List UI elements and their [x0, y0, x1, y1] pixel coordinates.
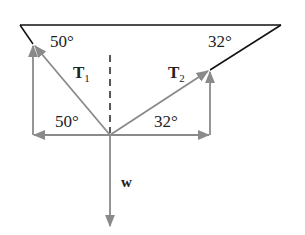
angle-label-top-right: 32°	[208, 33, 232, 50]
t2-label: T2	[168, 64, 185, 84]
t2-label-main: T	[168, 63, 179, 82]
angle-label-bottom-left: 50°	[55, 113, 79, 130]
t1-label-main: T	[73, 63, 84, 82]
angle-label-top-left: 50°	[50, 33, 74, 50]
force-diagram: 50° 32° 50° 32° T1 T2 w	[0, 0, 305, 235]
angle-label-bottom-right: 32°	[154, 113, 178, 130]
weight-label: w	[121, 175, 132, 190]
t1-label-subscript: 1	[84, 72, 90, 84]
t2-label-subscript: 2	[179, 72, 185, 84]
t1-label: T1	[73, 64, 90, 84]
diagram-graphics	[0, 0, 305, 235]
